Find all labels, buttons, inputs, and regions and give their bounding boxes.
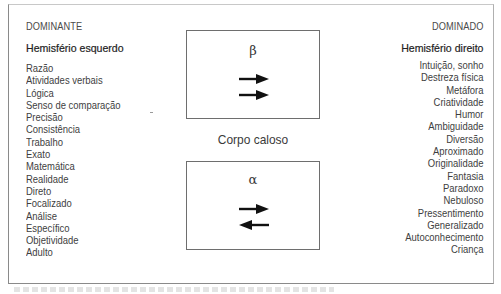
arrow-left-icon xyxy=(239,220,269,230)
stray-mark xyxy=(150,112,153,113)
left-trait: Específico xyxy=(26,222,121,234)
beta-symbol: β xyxy=(187,43,319,58)
right-trait: Pressentimento xyxy=(402,207,483,219)
left-trait: Senso de comparação xyxy=(26,99,121,111)
left-trait: Direto xyxy=(26,185,121,197)
right-trait-list: Intuição, sonho Destreza física Metáfora… xyxy=(394,59,483,256)
right-trait: Criança xyxy=(402,243,483,255)
left-trait: Focalizado xyxy=(26,197,121,209)
beta-box: β xyxy=(186,30,320,119)
right-trait: Fantasia xyxy=(402,170,483,182)
right-trait: Metáfora xyxy=(402,84,483,96)
right-trait: Ambiguidade xyxy=(402,120,483,132)
right-hemisphere-column: DOMINADO Hemisfério direito Intuição, so… xyxy=(394,19,483,256)
right-trait: Humor xyxy=(402,108,483,120)
right-trait: Intuição, sonho xyxy=(402,59,483,71)
left-hemisphere-column: DOMINANTE Hemisfério esquerdo Razão Ativ… xyxy=(26,19,132,259)
left-trait: Realidade xyxy=(26,173,121,185)
left-trait: Atividades verbais xyxy=(26,74,121,86)
left-trait: Precisão xyxy=(26,111,121,123)
left-category-label: DOMINANTE xyxy=(26,19,119,33)
left-trait: Objetividade xyxy=(26,234,121,246)
right-trait: Criatividade xyxy=(402,96,483,108)
right-hemisphere-heading: Hemisfério direito xyxy=(401,41,483,56)
left-trait: Trabalho xyxy=(26,136,121,148)
left-trait: Lógica xyxy=(26,87,121,99)
left-trait: Matemática xyxy=(26,160,121,172)
right-category-label: DOMINADO xyxy=(404,19,483,33)
arrow-right-icon xyxy=(239,90,269,100)
alpha-box: α xyxy=(186,161,320,250)
cropped-caption-fragment xyxy=(14,287,334,292)
right-trait: Aproximado xyxy=(402,145,483,157)
right-trait: Nebuloso xyxy=(402,194,483,206)
left-trait: Consistência xyxy=(26,123,121,135)
right-trait: Autoconhecimento xyxy=(402,231,483,243)
left-trait: Análise xyxy=(26,210,121,222)
left-trait-list: Razão Atividades verbais Lógica Senso de… xyxy=(26,62,132,259)
corpus-callosum-label: Corpo caloso xyxy=(191,132,314,147)
left-trait: Exato xyxy=(26,148,121,160)
right-trait: Originalidade xyxy=(402,157,483,169)
arrow-right-icon xyxy=(239,74,269,84)
right-trait: Paradoxo xyxy=(402,182,483,194)
left-trait: Razão xyxy=(26,62,121,74)
alpha-symbol: α xyxy=(187,172,319,187)
left-trait: Adulto xyxy=(26,246,121,258)
arrow-right-icon xyxy=(239,204,269,214)
right-trait: Destreza física xyxy=(402,71,483,83)
right-trait: Diversão xyxy=(402,133,483,145)
left-hemisphere-heading: Hemisfério esquerdo xyxy=(26,41,124,56)
right-trait: Generalizado xyxy=(402,219,483,231)
